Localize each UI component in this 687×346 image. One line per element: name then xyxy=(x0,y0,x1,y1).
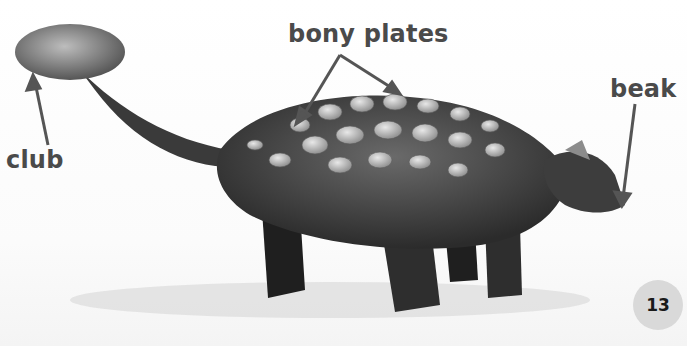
tail-club xyxy=(15,24,125,80)
page-number: 13 xyxy=(646,295,670,315)
beak-label: beak xyxy=(610,77,676,101)
club-label: club xyxy=(6,148,64,172)
book-page: bony plates club beak 13 xyxy=(0,0,687,346)
bony-plates-label: bony plates xyxy=(288,22,449,46)
ankylosaurus-illustration xyxy=(0,0,687,346)
page-number-badge: 13 xyxy=(633,280,683,330)
